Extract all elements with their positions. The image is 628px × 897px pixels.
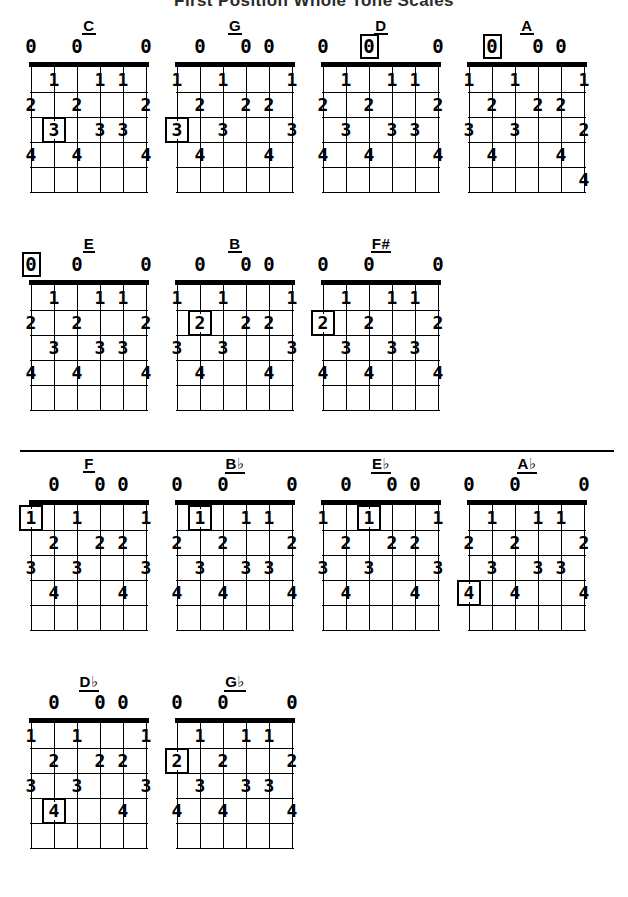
- fret-line-3: [176, 580, 294, 581]
- finger-number: 3: [261, 559, 277, 577]
- finger-number: 4: [407, 584, 423, 602]
- fret-line-5: [322, 410, 440, 411]
- finger-number: 1: [215, 289, 231, 307]
- fret-line-3: [468, 580, 586, 581]
- nut: [29, 500, 149, 505]
- open-strings-row: 000: [30, 693, 148, 713]
- open-string-marker: 0: [532, 37, 545, 56]
- fret-line-4: [30, 823, 148, 824]
- open-string-marker: 0: [117, 693, 130, 712]
- string-line-4: [100, 722, 101, 848]
- nut: [29, 62, 149, 67]
- finger-number: 1: [23, 727, 39, 745]
- finger-number: 2: [361, 96, 377, 114]
- finger-number: 2: [530, 96, 546, 114]
- diagram-label-text: E♭: [371, 456, 391, 474]
- string-line-2: [200, 284, 201, 410]
- open-string-marker: 0: [240, 37, 253, 56]
- finger-number: 3: [407, 121, 423, 139]
- fret-line-3: [176, 142, 294, 143]
- finger-number: 1: [192, 727, 208, 745]
- open-string-marker: 0: [286, 475, 299, 494]
- nut: [467, 62, 587, 67]
- finger-number: 4: [315, 146, 331, 164]
- open-strings-row: 000: [322, 37, 440, 57]
- open-string-root-marker: 0: [25, 255, 38, 274]
- fret-line-4: [176, 385, 294, 386]
- finger-number: 3: [92, 121, 108, 139]
- fret-line-2: [30, 117, 148, 118]
- open-string-marker: 0: [48, 475, 61, 494]
- finger-number: 2: [169, 534, 185, 552]
- finger-number: 2: [553, 96, 569, 114]
- finger-number: 3: [338, 121, 354, 139]
- fret-line-4: [468, 605, 586, 606]
- fret-line-3: [30, 798, 148, 799]
- finger-number: 2: [430, 314, 446, 332]
- fret-line-2: [322, 555, 440, 556]
- open-string-marker: 0: [240, 255, 253, 274]
- root-note-marker: 3: [46, 121, 62, 139]
- nut: [175, 718, 295, 723]
- flat-accidental-icon: ♭: [237, 455, 245, 473]
- root-note-marker: 1: [23, 509, 39, 527]
- finger-number: 3: [192, 559, 208, 577]
- fret-line-4: [30, 167, 148, 168]
- fretboard: 11122233344: [322, 500, 440, 630]
- open-string-marker: 0: [140, 255, 153, 274]
- string-line-6: [438, 284, 439, 410]
- finger-number: 1: [507, 71, 523, 89]
- finger-number: 1: [169, 71, 185, 89]
- open-string-marker: 0: [194, 37, 207, 56]
- fret-line-5: [322, 192, 440, 193]
- finger-number: 2: [46, 534, 62, 552]
- string-line-2: [200, 66, 201, 192]
- diagram-label: C: [30, 18, 148, 35]
- finger-number: 1: [407, 71, 423, 89]
- finger-number: 3: [215, 339, 231, 357]
- finger-number: 3: [384, 339, 400, 357]
- open-string-marker: 0: [217, 475, 230, 494]
- finger-number: 1: [461, 71, 477, 89]
- finger-number: 2: [215, 752, 231, 770]
- open-strings-row: 000: [176, 693, 294, 713]
- fretboard: 111222333444: [322, 62, 440, 192]
- finger-number: 1: [261, 727, 277, 745]
- finger-number: 3: [169, 339, 185, 357]
- fret-line-1: [30, 530, 148, 531]
- fret-line-2: [30, 555, 148, 556]
- finger-number: 3: [115, 121, 131, 139]
- finger-number: 4: [361, 146, 377, 164]
- fretboard: 111222333444: [468, 500, 586, 630]
- open-string-marker: 0: [286, 693, 299, 712]
- open-string-marker: 0: [94, 693, 107, 712]
- finger-number: 1: [530, 509, 546, 527]
- fret-line-2: [176, 773, 294, 774]
- finger-number: 3: [69, 559, 85, 577]
- string-line-3: [369, 284, 370, 410]
- fret-line-5: [176, 630, 294, 631]
- finger-number: 1: [92, 289, 108, 307]
- finger-number: 2: [484, 96, 500, 114]
- diagram-label: E: [30, 236, 148, 253]
- nut: [29, 718, 149, 723]
- finger-number: 3: [315, 559, 331, 577]
- fret-line-1: [30, 748, 148, 749]
- open-strings-row: 000: [30, 255, 148, 275]
- finger-number: 2: [69, 96, 85, 114]
- fret-line-3: [322, 580, 440, 581]
- finger-number: 4: [284, 584, 300, 602]
- string-line-1: [469, 504, 470, 630]
- finger-number: 1: [315, 509, 331, 527]
- finger-number: 4: [169, 802, 185, 820]
- finger-number: 1: [46, 289, 62, 307]
- fretboard: 111222333444: [176, 718, 294, 848]
- finger-number: 4: [261, 364, 277, 382]
- finger-number: 2: [430, 96, 446, 114]
- fret-line-3: [176, 798, 294, 799]
- open-string-marker: 0: [171, 693, 184, 712]
- finger-number: 2: [115, 752, 131, 770]
- root-note-marker: 1: [361, 509, 377, 527]
- finger-number: 1: [46, 71, 62, 89]
- string-line-5: [123, 722, 124, 848]
